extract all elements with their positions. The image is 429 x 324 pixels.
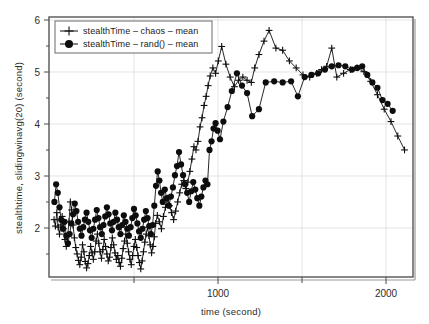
data-point (155, 168, 161, 174)
data-point (176, 149, 182, 155)
data-point (68, 220, 74, 226)
line-chart: 6 5 4 3 2 1000 2000 time (second) stealt… (0, 0, 429, 324)
ytick-label-2: 2 (34, 223, 40, 234)
data-point (51, 199, 57, 205)
data-point (104, 204, 110, 210)
ytick-label-3: 3 (34, 171, 40, 182)
data-point (186, 199, 192, 205)
data-point (170, 184, 176, 190)
data-point (75, 219, 81, 225)
data-point (369, 79, 375, 85)
data-point (126, 233, 132, 239)
data-point (198, 193, 204, 199)
data-point (256, 106, 262, 112)
x-axis-title: time (second) (201, 306, 261, 317)
data-point (156, 177, 162, 183)
data-point (85, 219, 91, 225)
ytick-label-6: 6 (34, 15, 40, 26)
data-point (212, 120, 218, 126)
data-point (329, 63, 335, 69)
legend-label-chaos: stealthTime – chaos – mean (83, 26, 198, 36)
data-point (225, 104, 231, 110)
data-point (134, 220, 140, 226)
data-point (73, 208, 79, 214)
xtick-label-2000: 2000 (375, 288, 398, 299)
data-point (196, 203, 202, 209)
data-point (78, 233, 84, 239)
data-point (234, 70, 240, 76)
data-point (60, 226, 66, 232)
data-point (180, 172, 186, 178)
data-point (138, 235, 144, 241)
data-point (308, 72, 314, 78)
data-point (295, 93, 301, 99)
data-point (105, 211, 111, 217)
legend-label-rand: stealthTime – rand() – mean (83, 39, 198, 49)
data-point (109, 227, 115, 233)
data-point (89, 235, 95, 241)
data-point (342, 63, 348, 69)
data-point (144, 215, 150, 221)
chart-figure: 6 5 4 3 2 1000 2000 time (second) stealt… (0, 0, 429, 324)
data-point (190, 179, 196, 185)
ytick-label-4: 4 (34, 119, 40, 130)
data-point (280, 79, 286, 85)
data-point (206, 147, 212, 153)
data-point (220, 118, 226, 124)
data-point (139, 226, 145, 232)
data-point (83, 210, 89, 216)
xtick-label-1000: 1000 (207, 288, 230, 299)
circle-marker-icon (65, 40, 73, 48)
data-point (322, 66, 328, 72)
data-point (271, 78, 277, 84)
data-point (72, 200, 78, 206)
data-point (182, 181, 188, 187)
data-point (162, 187, 168, 193)
data-point (56, 204, 62, 210)
data-point (112, 210, 118, 216)
data-point (65, 240, 71, 246)
data-point (178, 161, 184, 167)
data-point (99, 231, 105, 237)
data-point (364, 72, 370, 78)
data-point (192, 187, 198, 193)
data-point (166, 203, 172, 209)
chart-legend: stealthTime – chaos – mean stealthTime –… (55, 21, 212, 53)
data-point (385, 101, 391, 107)
data-point (80, 224, 86, 230)
data-point (172, 172, 178, 178)
data-point (244, 90, 250, 96)
data-point (95, 215, 101, 221)
data-point (122, 219, 128, 225)
data-point (379, 97, 385, 103)
data-point (131, 206, 137, 212)
data-point (53, 181, 59, 187)
data-point (121, 212, 127, 218)
data-point (117, 231, 123, 237)
data-point (288, 78, 294, 84)
data-point (100, 222, 106, 228)
data-point (61, 219, 67, 225)
data-point (263, 79, 269, 85)
data-point (390, 108, 396, 114)
data-point (359, 63, 365, 69)
data-point (229, 88, 235, 94)
data-point (168, 193, 174, 199)
y-axis-title: stealthtime, slidingwinavg(20) (second) (13, 62, 24, 234)
data-point (148, 231, 154, 237)
data-point (208, 138, 214, 144)
data-point (335, 62, 341, 68)
data-point (374, 85, 380, 91)
data-point (249, 113, 255, 119)
data-point (239, 83, 245, 89)
data-point (128, 224, 134, 230)
data-point (133, 212, 139, 218)
data-point (217, 136, 223, 142)
data-point (151, 203, 157, 209)
data-point (143, 208, 149, 214)
data-point (302, 74, 308, 80)
data-point (114, 217, 120, 223)
ytick-label-5: 5 (34, 67, 40, 78)
data-point (315, 70, 321, 76)
data-point (215, 128, 221, 134)
